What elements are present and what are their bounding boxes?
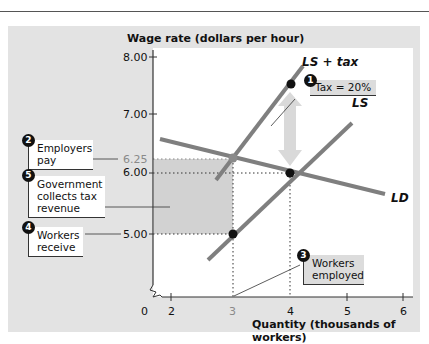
callout-workers-receive-line1: Workers <box>37 229 79 241</box>
callout-government-revenue: Government collects tax revenue <box>28 176 105 218</box>
chart-svg <box>0 0 429 344</box>
callout-tax-text: Tax = 20% <box>315 81 371 93</box>
callout-workers-employed-line2: employed <box>312 269 360 281</box>
x-axis-label: Quantity (thousands of workers) <box>252 318 429 344</box>
x-tick-4: 4 <box>287 305 294 318</box>
callout-government-line1: Government <box>37 178 101 190</box>
ls-tax-label: LS + tax <box>302 55 358 69</box>
callout-workers-employed: Workers employed <box>303 255 364 285</box>
badge-3: 3 <box>297 249 310 262</box>
callout-employers-line1: Employers <box>37 142 89 154</box>
badge-1: 1 <box>304 74 317 87</box>
callout-employers-pay: Employers pay <box>28 140 93 170</box>
employers-pay-point <box>229 154 238 163</box>
callout-employers-line2: pay <box>37 154 89 166</box>
badge-2: 2 <box>22 134 35 147</box>
ld-label: LD <box>391 191 409 205</box>
y-tick-8: 8.00 <box>123 51 148 64</box>
callout-tax: Tax = 20% <box>310 80 376 96</box>
y-tick-5: 5.00 <box>123 228 148 241</box>
equilibrium-point <box>286 169 295 178</box>
callout-workers-employed-line1: Workers <box>312 257 360 269</box>
callout-government-line3: revenue <box>37 202 101 214</box>
x-tick-2: 2 <box>168 305 175 318</box>
ls-tax-point <box>287 80 296 89</box>
workers-receive-point <box>229 230 238 239</box>
callout-government-line2: collects tax <box>37 190 101 202</box>
x-tick-0: 0 <box>141 305 148 318</box>
badge-5: 5 <box>22 169 35 182</box>
y-tick-625: 6.25 <box>123 153 148 166</box>
callout-workers-receive-line2: receive <box>37 241 79 253</box>
callout-workers-receive: Workers receive <box>28 227 83 257</box>
x-tick-5: 5 <box>344 305 351 318</box>
x-tick-6: 6 <box>400 305 407 318</box>
y-tick-7: 7.00 <box>123 108 148 121</box>
x-tick-3: 3 <box>229 305 236 318</box>
y-tick-6: 6.00 <box>123 166 148 179</box>
y-axis-label: Wage rate (dollars per hour) <box>127 32 304 45</box>
badge-4: 4 <box>22 221 35 234</box>
ls-label: LS <box>352 96 368 110</box>
